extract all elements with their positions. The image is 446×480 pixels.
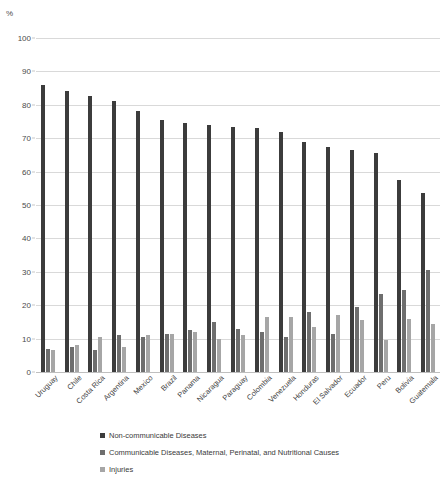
y-axis-tick-mark-70 [32,138,35,139]
legend-label: Non-communicable Diseases [109,431,207,440]
bar[interactable] [122,347,126,372]
legend-swatch-icon [100,433,105,438]
x-axis-label-uruguay: Uruguay [34,374,59,399]
bar[interactable] [183,123,187,372]
bar[interactable] [136,111,140,372]
legend-label: Injuries [109,465,133,474]
bar[interactable] [207,125,211,372]
bar[interactable] [146,335,150,372]
bar-group [226,38,250,372]
legend-item[interactable]: Non-communicable Diseases [100,427,440,444]
bar[interactable] [88,96,92,372]
bar-group [84,38,108,372]
bar[interactable] [336,315,340,372]
bar[interactable] [260,332,264,372]
bar[interactable] [307,312,311,372]
bar[interactable] [217,339,221,372]
bar[interactable] [397,180,401,372]
bar-group [321,38,345,372]
bar[interactable] [193,332,197,372]
bar[interactable] [51,350,55,372]
bar[interactable] [379,294,383,372]
bar-group [107,38,131,372]
y-axis-tick-mark-10 [32,338,35,339]
bar-group [155,38,179,372]
y-axis-tick-label-10: 10 [22,334,31,343]
bar-groups [36,38,440,372]
bar[interactable] [117,335,121,372]
bar-group [131,38,155,372]
bar[interactable] [384,340,388,372]
bar[interactable] [170,334,174,372]
y-axis-tick-label-100: 100 [18,34,31,43]
bar[interactable] [212,322,216,372]
bar-group [179,38,203,372]
bar[interactable] [255,128,259,372]
bar[interactable] [312,327,316,372]
bar[interactable] [165,334,169,372]
bar[interactable] [302,142,306,372]
bar[interactable] [331,334,335,372]
bar[interactable] [241,335,245,372]
y-axis-tick-label-0: 0 [27,368,31,377]
bar[interactable] [141,337,145,372]
bar[interactable] [93,350,97,372]
y-axis-tick-label-40: 40 [22,234,31,243]
bar[interactable] [160,120,164,372]
y-axis-tick-mark-30 [32,271,35,272]
y-axis-tick-label-50: 50 [22,201,31,210]
bar[interactable] [350,150,354,372]
x-axis-label-peru: Peru [375,374,392,391]
x-axis-label-brazil: Brazil [159,374,178,393]
legend-item[interactable]: Injuries [100,461,440,478]
bar[interactable] [75,345,79,372]
y-axis-tick-label-20: 20 [22,301,31,310]
y-axis-tick-mark-50 [32,205,35,206]
bar[interactable] [65,91,69,372]
bar-group [36,38,60,372]
bar[interactable] [284,337,288,372]
y-axis-tick-mark-80 [32,104,35,105]
bar[interactable] [70,347,74,372]
x-axis-label-chile: Chile [66,374,83,391]
legend-swatch-icon [100,450,105,455]
x-axis-category-labels: UruguayChileCosta RicaArgentinaMexicoBra… [36,374,440,426]
bar[interactable] [407,319,411,372]
bar-group [297,38,321,372]
y-axis-tick-mark-90 [32,71,35,72]
bar[interactable] [421,193,425,372]
bar[interactable] [188,330,192,372]
y-axis-tick-label-60: 60 [22,167,31,176]
gridline-0 [36,372,440,373]
bar[interactable] [236,329,240,372]
x-axis-label-mexico: Mexico [132,374,154,396]
y-axis-tick-label-80: 80 [22,100,31,109]
legend-item[interactable]: Communicable Diseases, Maternal, Perinat… [100,444,440,461]
bar[interactable] [231,127,235,372]
bar[interactable] [402,290,406,372]
bar[interactable] [360,320,364,372]
y-axis-tick-mark-20 [32,305,35,306]
bar-group [345,38,369,372]
bar[interactable] [41,85,45,372]
bar[interactable] [326,147,330,372]
bar[interactable] [46,349,50,372]
bar[interactable] [374,153,378,372]
bar[interactable] [112,101,116,372]
bar[interactable] [431,324,435,372]
bar[interactable] [265,317,269,372]
chart-container: % 1009080706050403020100 UruguayChileCos… [0,0,446,480]
bar[interactable] [289,317,293,372]
y-axis-unit-label: % [6,9,13,18]
y-axis-tick-mark-100 [32,38,35,39]
bar[interactable] [98,337,102,372]
bar-group [274,38,298,372]
bar[interactable] [355,307,359,372]
y-axis-tick-mark-40 [32,238,35,239]
bar[interactable] [426,270,430,372]
y-axis-tick-label-70: 70 [22,134,31,143]
y-axis-tick-mark-60 [32,171,35,172]
x-axis-label-argentina: Argentina [102,374,130,402]
bar[interactable] [279,132,283,372]
x-axis-label-bolivia: Bolivia [395,374,416,395]
